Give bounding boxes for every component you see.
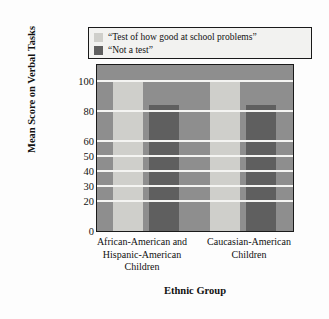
- legend-swatch-dark: [94, 46, 103, 55]
- legend-swatch-light: [94, 33, 103, 42]
- x-category-1-line-1: Children: [196, 249, 302, 262]
- gridline-40: [97, 170, 293, 172]
- x-category-0-line-1: Hispanic-American: [88, 249, 196, 262]
- gridline-60: [97, 140, 293, 142]
- y-tick-100: 100: [78, 75, 94, 86]
- y-tick-80: 80: [84, 105, 95, 116]
- bar-g0-s1: [149, 105, 179, 231]
- x-category-1-line-0: Caucasian-American: [196, 236, 302, 249]
- legend-item-test-of-how-good: “Test of how good at school problems”: [94, 31, 306, 43]
- gridline-100: [97, 80, 293, 82]
- bar-g1-s1: [246, 105, 276, 231]
- gridline-80: [97, 110, 293, 112]
- bar-chart-figure: “Test of how good at school problems” “N…: [0, 0, 329, 319]
- plot-area: [96, 64, 294, 232]
- y-tick-30: 30: [84, 180, 95, 191]
- gridline-50: [97, 155, 293, 157]
- x-axis-title: Ethnic Group: [96, 285, 294, 296]
- gridline-20: [97, 200, 293, 202]
- x-category-label-1: Caucasian-AmericanChildren: [196, 236, 302, 261]
- plot-inner: [97, 65, 293, 231]
- x-category-0-line-2: Children: [88, 261, 196, 274]
- x-category-label-0: African-American andHispanic-AmericanChi…: [88, 236, 196, 274]
- x-category-0-line-0: African-American and: [88, 236, 196, 249]
- y-tick-0: 0: [89, 225, 94, 236]
- legend-item-not-a-test: “Not a test”: [94, 44, 306, 56]
- y-tick-20: 20: [84, 195, 95, 206]
- legend-label-light: “Test of how good at school problems”: [108, 32, 257, 42]
- legend-label-dark: “Not a test”: [108, 45, 153, 55]
- y-axis-title: Mean Score on Verbal Tasks: [26, 25, 37, 155]
- y-tick-40: 40: [84, 165, 95, 176]
- y-tick-50: 50: [84, 150, 95, 161]
- chart-legend: “Test of how good at school problems” “N…: [88, 27, 312, 59]
- y-tick-60: 60: [84, 135, 95, 146]
- gridline-30: [97, 185, 293, 187]
- y-axis-tick-labels: 0203040506080100: [64, 64, 94, 232]
